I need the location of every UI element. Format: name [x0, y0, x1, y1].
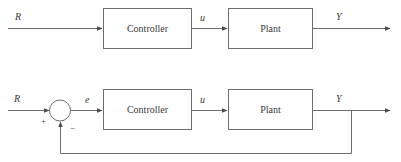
open-loop-input-signal-label: R — [15, 12, 21, 22]
controller-block-label: Controller — [127, 104, 168, 115]
diagram-vector-layer — [0, 0, 401, 162]
closed-loop-controller-block: Controller — [103, 89, 192, 130]
closed-loop-plant-block: Plant — [228, 89, 313, 130]
closed-loop-input-signal-label: R — [14, 94, 20, 104]
plant-block-label: Plant — [260, 23, 281, 34]
closed-loop-output-signal-label: Y — [336, 94, 342, 104]
open-loop-output-signal-label: Y — [336, 12, 342, 22]
plant-block-label: Plant — [260, 104, 281, 115]
block-diagram-figure: Controller Plant R u Y Controller Plant … — [0, 0, 401, 162]
controller-block-label: Controller — [127, 23, 168, 34]
summing-junction-minus-sign: − — [70, 124, 75, 133]
open-loop-plant-block: Plant — [228, 8, 313, 49]
summing-junction-plus-sign: + — [41, 117, 46, 126]
summing-junction — [50, 100, 71, 121]
closed-loop-error-signal-label: e — [85, 95, 89, 105]
open-loop-control-signal-label: u — [200, 13, 205, 23]
closed-loop-wiring — [8, 100, 390, 154]
open-loop-controller-block: Controller — [103, 8, 192, 49]
closed-loop-control-signal-label: u — [200, 95, 205, 105]
